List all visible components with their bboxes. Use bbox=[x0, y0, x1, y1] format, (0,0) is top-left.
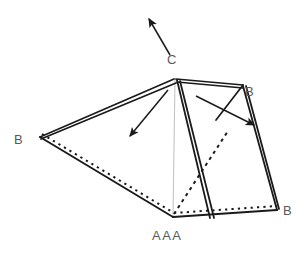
arrow-up-left-from-apex bbox=[149, 19, 170, 55]
label-apex-c: C bbox=[167, 53, 177, 66]
vertical-axis-line bbox=[173, 78, 175, 217]
edge-apex-to-left-b bbox=[41, 83, 176, 139]
edge-back-right-to-right-bottom-b bbox=[246, 86, 279, 209]
label-left-vertex-b: B bbox=[14, 133, 23, 146]
edge-back-right-to-right-bottom-a bbox=[243, 86, 277, 210]
label-front-bottom-vertex-aaa: AAA bbox=[152, 229, 183, 242]
hidden-diagonal-edge bbox=[174, 131, 228, 214]
edge-back-right-connector bbox=[216, 85, 243, 120]
arrow-down-left-front-face bbox=[130, 90, 168, 136]
base-edge-left-front bbox=[40, 137, 173, 217]
base-edge-left-front-dotted bbox=[42, 134, 174, 213]
pyramid-diagram: C B B B AAA bbox=[0, 0, 308, 254]
label-upper-right-vertex-b: B bbox=[245, 85, 254, 98]
edge-apex-to-back-right-b bbox=[177, 82, 243, 88]
edge-apex-to-front-bottom-b bbox=[180, 81, 214, 218]
arrow-down-right-side-face bbox=[196, 96, 254, 125]
label-bottom-right-vertex-b: B bbox=[283, 204, 292, 217]
pyramid-figure-svg bbox=[0, 0, 308, 254]
